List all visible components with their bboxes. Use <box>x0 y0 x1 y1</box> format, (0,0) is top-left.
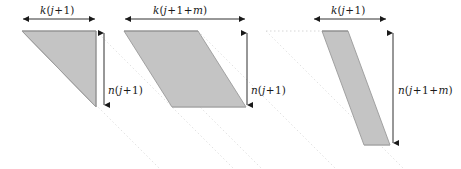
block-2-side-label: n(j+1) <box>251 85 286 96</box>
block-3-side-label: n(j+1+m) <box>398 85 453 96</box>
figure-canvas: k(j+1) n(j+1) k(j+1+m) n(j+1) k(j+1) n(j… <box>0 0 461 169</box>
block-3-top-label: k(j+1) <box>331 5 365 16</box>
block-3-parallelogram <box>322 31 390 145</box>
block-3-shape <box>322 31 390 145</box>
block-1-top-label: k(j+1) <box>40 5 74 16</box>
diagram-svg <box>0 0 461 169</box>
block-1-shape <box>22 31 96 107</box>
block-2-top-label: k(j+1+m) <box>153 5 207 16</box>
block-1-side-label: n(j+1) <box>108 85 143 96</box>
